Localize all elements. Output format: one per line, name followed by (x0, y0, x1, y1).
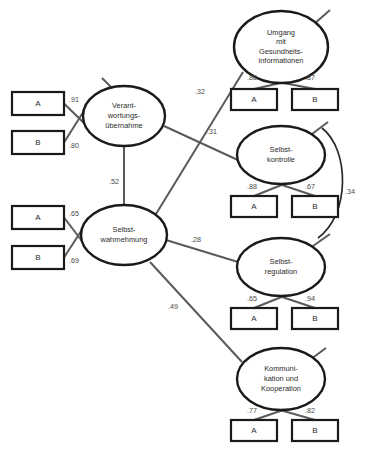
indicator-label-selbstregulation-a: A (251, 314, 257, 323)
sw-a-loading: .65 (69, 209, 79, 218)
latent-label-umgang-gesundheitsinformationen-line-0: Umgang (267, 28, 295, 37)
kk-b-loading: .82 (305, 406, 315, 415)
latent-label-kommunikation-kooperation-line-0: Kommuni- (264, 364, 298, 373)
sr-b-loading: .94 (305, 294, 315, 303)
sk-b-loading: .67 (305, 182, 315, 191)
sk-a-loading: .88 (247, 182, 257, 191)
path-sw-kk-coefficient: .49 (168, 302, 178, 311)
path-sw-sr-coefficient: .28 (191, 235, 201, 244)
sw-b-loading: .69 (69, 256, 79, 265)
path-sw-sr (166, 240, 238, 262)
latent-label-selbstkontrolle-line-1: kontrolle (267, 155, 295, 164)
corr-selbstkontrolle-selbstregulation-coefficient: .34 (345, 187, 355, 196)
indicator-label-kommunikation-kooperation-a: A (251, 426, 257, 435)
latent-label-selbstwahrnehmung-line-0: Selbst- (112, 225, 136, 234)
latent-label-verantwortungsuebernahme-line-2: übernahme (105, 121, 142, 130)
latent-label-umgang-gesundheitsinformationen-line-1: mit (276, 37, 286, 46)
latent-label-verantwortungsuebernahme-line-1: wortungs- (107, 111, 141, 120)
ug-a-loading: .88 (247, 73, 257, 82)
latent-label-selbstwahrnehmung-line-1: wahrnehmung (100, 235, 148, 244)
latent-label-umgang-gesundheitsinformationen-line-3: informationen (259, 56, 304, 65)
indicator-label-verantwortungsuebernahme-a: A (35, 99, 41, 108)
latent-label-umgang-gesundheitsinformationen-line-2: Gesundheits- (259, 47, 303, 56)
path-vu-sk (164, 126, 240, 161)
indicator-label-umgang-gesundheitsinformationen-b: B (312, 95, 317, 104)
sem-canvas: .52.32.31.28.49AB.91.80Verant-wortungs-ü… (0, 0, 367, 450)
latent-label-kommunikation-kooperation-line-1: kation und (264, 374, 298, 383)
latent-label-kommunikation-kooperation-line-2: Kooperation (261, 384, 301, 393)
sem-path-diagram: .52.32.31.28.49AB.91.80Verant-wortungs-ü… (0, 0, 367, 450)
sr-a-loading: .65 (247, 294, 257, 303)
latent-label-selbstregulation-line-1: regulation (265, 267, 297, 276)
latent-label-selbstregulation-line-0: Selbst- (269, 257, 293, 266)
latent-label-verantwortungsuebernahme-line-0: Verant- (112, 101, 136, 110)
kk-a-loading: .77 (247, 406, 257, 415)
path-sw-kk (150, 262, 242, 362)
path-vu-sw-coefficient: .52 (109, 177, 119, 186)
ug-b-loading: .87 (305, 73, 315, 82)
indicator-label-verantwortungsuebernahme-b: B (35, 138, 40, 147)
indicator-label-selbstregulation-b: B (312, 314, 317, 323)
path-vu-sk-coefficient: .31 (207, 127, 217, 136)
indicator-label-selbstwahrnehmung-a: A (35, 213, 41, 222)
path-sw-ug-coefficient: .32 (195, 87, 205, 96)
latent-label-selbstkontrolle-line-0: Selbst- (269, 145, 293, 154)
vu-b-loading: .80 (69, 141, 79, 150)
indicator-label-selbstkontrolle-b: B (312, 202, 317, 211)
vu-a-loading: .91 (69, 95, 79, 104)
indicator-label-kommunikation-kooperation-b: B (312, 426, 317, 435)
indicator-label-selbstwahrnehmung-b: B (35, 253, 40, 262)
indicator-label-umgang-gesundheitsinformationen-a: A (251, 95, 257, 104)
indicator-label-selbstkontrolle-a: A (251, 202, 257, 211)
